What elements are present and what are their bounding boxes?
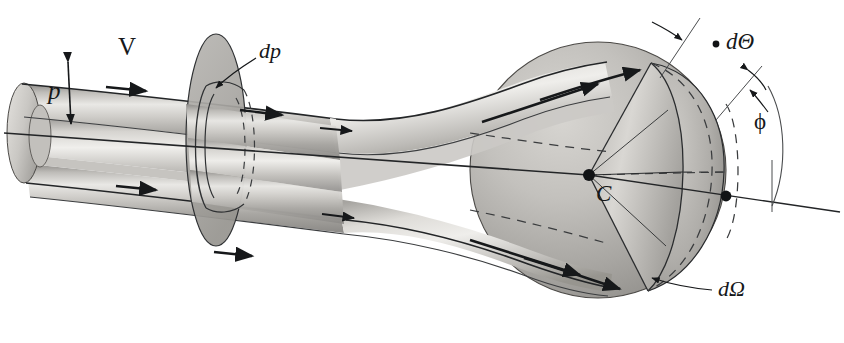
scattering-center-dot [583,169,595,181]
dTheta-ray-upper [660,18,700,78]
label-solid-angle-element: dΩ [718,278,745,300]
label-azimuthal-angle: ϕ [754,110,766,133]
flow-arrow-bottom-2 [214,252,252,256]
label-scattering-center: C [596,182,611,205]
label-impact-parameter: p [48,78,61,103]
figure-canvas: V p dp dΘ ϕ dΩ C [0,0,844,343]
dTheta-dot [713,41,720,48]
label-velocity: V [118,34,136,59]
phi-marker [748,70,783,206]
label-scattering-angle-element: dΘ [726,30,754,53]
hidden-meridian [726,104,738,240]
dTheta-tick-arrow-upper [652,22,682,40]
phi-arc [768,86,783,206]
flow-arrow-top-1 [106,87,146,91]
label-impact-parameter-element: dp [259,40,281,62]
axis-pole-dot [721,191,732,202]
